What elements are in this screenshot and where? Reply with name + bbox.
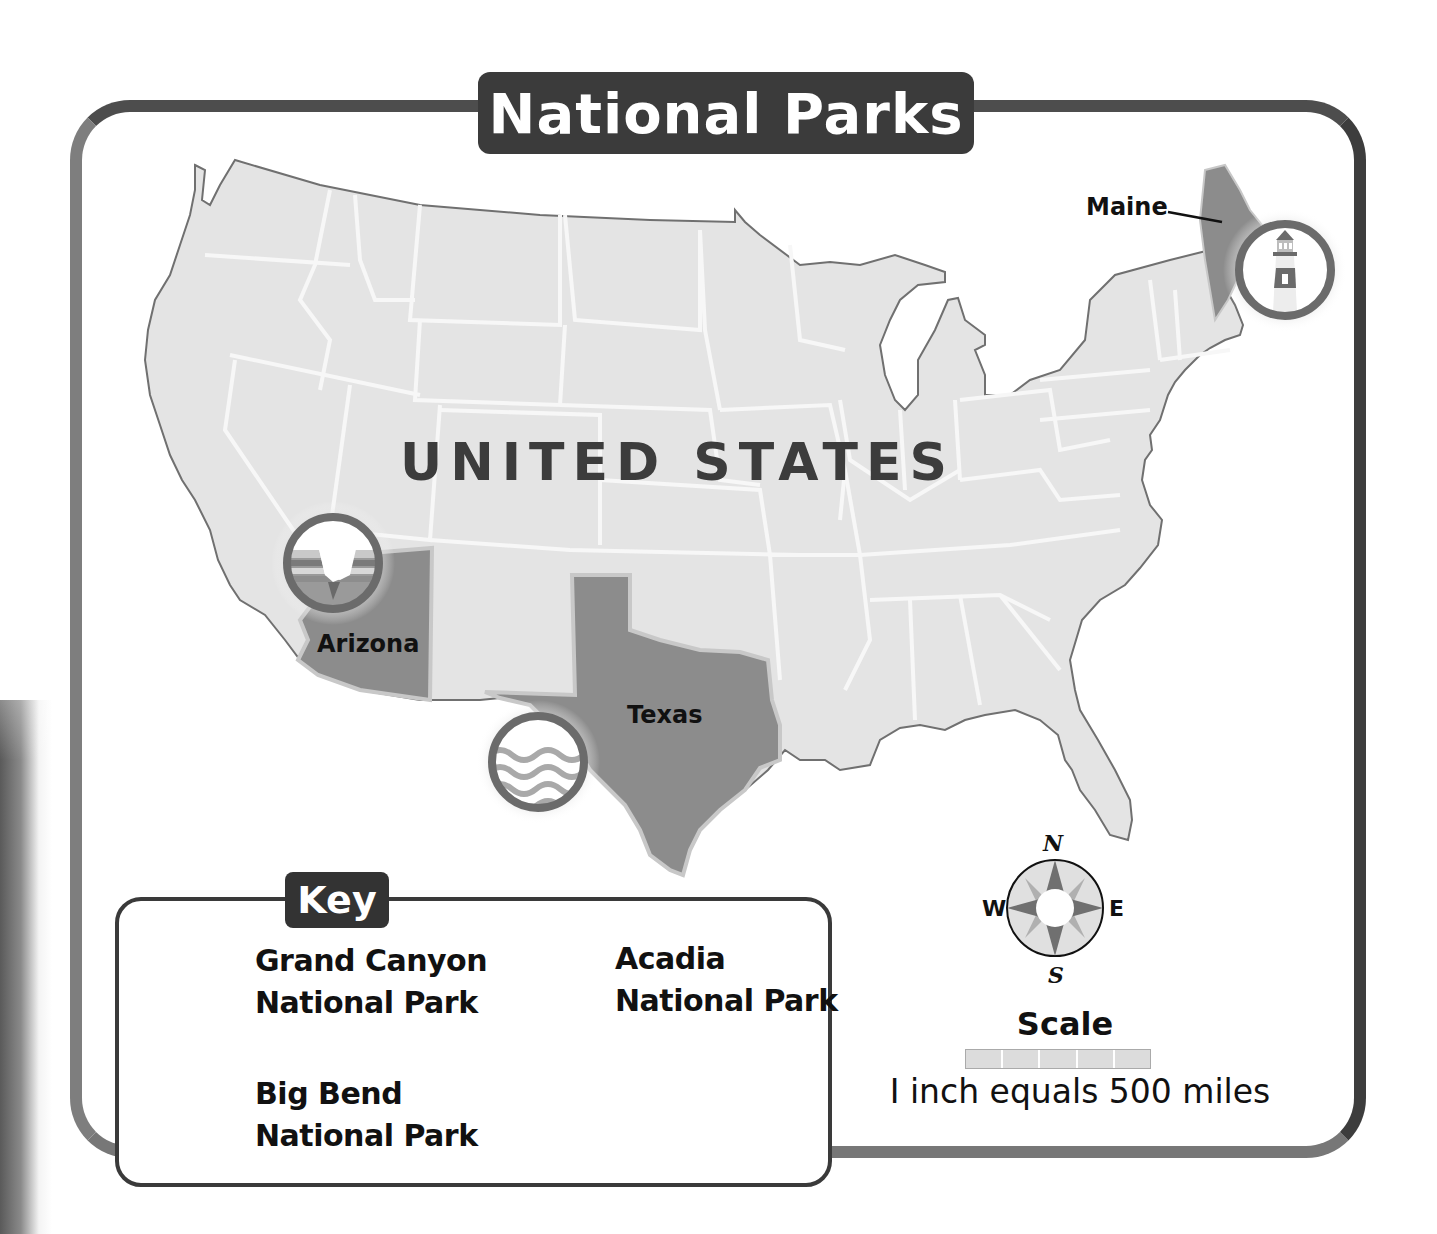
compass-north: N xyxy=(1043,830,1063,856)
key-title: Key xyxy=(285,872,389,928)
acadia-marker[interactable] xyxy=(1239,224,1331,316)
scale-title: Scale xyxy=(990,1005,1140,1043)
compass-east: E xyxy=(1109,896,1124,921)
state-label-arizona: Arizona xyxy=(317,630,419,658)
scale-segment xyxy=(1078,1050,1115,1068)
key-item-line2: National Park xyxy=(615,980,838,1022)
key-item-big-bend: Big Bend National Park xyxy=(255,1073,478,1157)
scale-bar xyxy=(965,1049,1151,1069)
key-item-acadia: Acadia National Park xyxy=(615,938,838,1022)
key-item-grand-canyon: Grand Canyon National Park xyxy=(255,940,487,1024)
big-bend-marker[interactable] xyxy=(488,716,584,811)
page-title: National Parks xyxy=(489,81,964,146)
scale-segment xyxy=(1003,1050,1040,1068)
key-item-line1: Big Bend xyxy=(255,1073,478,1115)
compass-rose xyxy=(1007,860,1103,956)
compass-west: W xyxy=(982,896,1006,921)
state-label-texas: Texas xyxy=(627,701,702,729)
scale-segment xyxy=(1115,1050,1150,1068)
state-label-maine: Maine xyxy=(1086,193,1168,221)
title-banner: National Parks xyxy=(478,72,974,154)
key-item-line2: National Park xyxy=(255,1115,478,1157)
key-item-line2: National Park xyxy=(255,982,487,1024)
scale-segment xyxy=(966,1050,1003,1068)
key-item-line1: Grand Canyon xyxy=(255,940,487,982)
scale-text: I inch equals 500 miles xyxy=(880,1072,1280,1111)
key-item-line1: Acadia xyxy=(615,938,838,980)
scale-segment xyxy=(1040,1050,1077,1068)
country-label: UNITED STATES xyxy=(400,432,955,492)
compass-south: S xyxy=(1048,962,1064,988)
